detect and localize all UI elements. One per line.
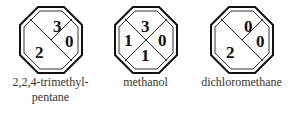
diagram-item-methanol: 3 1 0 1 methanol xyxy=(97,0,194,119)
value-bottom-left: 2 xyxy=(35,43,44,62)
value-right: 0 xyxy=(158,31,167,50)
compound-label-line1: 2,2,4-trimethyl- xyxy=(2,75,99,89)
compound-label-line2: pentane xyxy=(2,90,99,104)
value-top: 0 xyxy=(244,17,253,36)
octagon-icon: 0 0 2 xyxy=(210,6,274,74)
octagon-icon: 3 0 2 xyxy=(19,6,83,74)
compound-label: dichloromethane xyxy=(193,75,290,89)
value-left: 1 xyxy=(124,31,133,50)
value-bottom-left: 2 xyxy=(226,43,235,62)
value-bottom: 1 xyxy=(141,46,150,65)
compound-label: methanol xyxy=(97,75,194,89)
value-right: 0 xyxy=(256,32,265,51)
diagram-item-trimethylpentane: 3 0 2 2,2,4-trimethyl- pentane xyxy=(2,0,99,119)
value-top: 3 xyxy=(53,17,62,36)
octagon-icon: 3 1 0 1 xyxy=(114,6,178,74)
value-right: 0 xyxy=(65,32,74,51)
diagram-item-dichloromethane: 0 0 2 dichloromethane xyxy=(193,0,290,119)
value-top: 3 xyxy=(141,17,150,36)
